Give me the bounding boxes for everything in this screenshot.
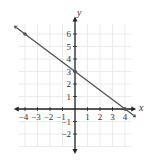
y-tick-label: 2 [67,79,72,89]
x-tick-label: 3 [110,112,115,122]
x-axis-label: x [138,102,144,113]
y-tick-label: −2 [61,129,71,139]
data-point [23,32,27,36]
y-tick-label: 1 [67,92,72,102]
data-point [73,70,77,74]
y-axis-label: y [76,7,82,18]
data-point [123,107,127,111]
x-tick-label: −2 [44,112,54,122]
y-tick-label: 5 [67,42,72,52]
x-tick-label: 2 [98,112,103,122]
y-tick-label: −1 [61,117,71,127]
x-tick-label: 1 [85,112,90,122]
y-arrow-down-icon [73,149,78,154]
y-tick-label: 4 [67,54,72,64]
x-tick-label: −3 [31,112,41,122]
x-arrow-left-icon [14,107,19,112]
x-tick-label: 4 [123,112,128,122]
axes [14,17,137,155]
x-arrow-right-icon [131,107,136,112]
y-tick-label: 6 [67,29,72,39]
x-tick-label: −4 [19,112,29,122]
coordinate-plane: −4−3−2−11234−2−1123456 x y [0,0,144,160]
